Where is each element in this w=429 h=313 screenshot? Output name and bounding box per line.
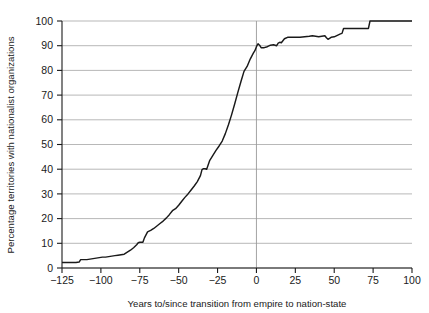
line-chart-svg: −125−100−75−50−250255075100 010203040506… [0, 0, 429, 313]
x-tick-label-50: 50 [328, 274, 340, 286]
x-tick-label--75: −75 [131, 274, 149, 286]
gridlines-group [62, 21, 412, 268]
y-tick-label-30: 30 [41, 188, 53, 200]
y-tick-label-60: 60 [41, 113, 53, 125]
x-tick-label-25: 25 [289, 274, 301, 286]
x-tick-label--100: −100 [89, 274, 113, 286]
y-tick-label-50: 50 [41, 138, 53, 150]
y-tick-label-80: 80 [41, 64, 53, 76]
y-tick-labels-group: 0102030405060708090100 [35, 15, 53, 274]
y-tick-label-40: 40 [41, 163, 53, 175]
x-tick-marks-group [62, 268, 412, 273]
x-tick-label--125: −125 [50, 274, 74, 286]
x-tick-label-100: 100 [403, 274, 421, 286]
x-tick-label--50: −50 [170, 274, 188, 286]
data-series-line [62, 21, 412, 263]
x-tick-label-0: 0 [254, 274, 260, 286]
y-tick-label-70: 70 [41, 89, 53, 101]
x-tick-label-75: 75 [367, 274, 379, 286]
y-tick-marks-group [57, 21, 62, 268]
chart-figure: −125−100−75−50−250255075100 010203040506… [0, 0, 429, 313]
x-tick-label--25: −25 [209, 274, 227, 286]
y-tick-label-0: 0 [47, 262, 53, 274]
y-axis-title: Percentage territories with nationalist … [5, 36, 16, 253]
x-axis-title: Years to/since transition from empire to… [128, 298, 347, 309]
x-tick-labels-group: −125−100−75−50−250255075100 [50, 274, 421, 286]
y-tick-label-10: 10 [41, 237, 53, 249]
y-tick-label-20: 20 [41, 212, 53, 224]
y-tick-label-100: 100 [35, 15, 53, 27]
y-tick-label-90: 90 [41, 39, 53, 51]
